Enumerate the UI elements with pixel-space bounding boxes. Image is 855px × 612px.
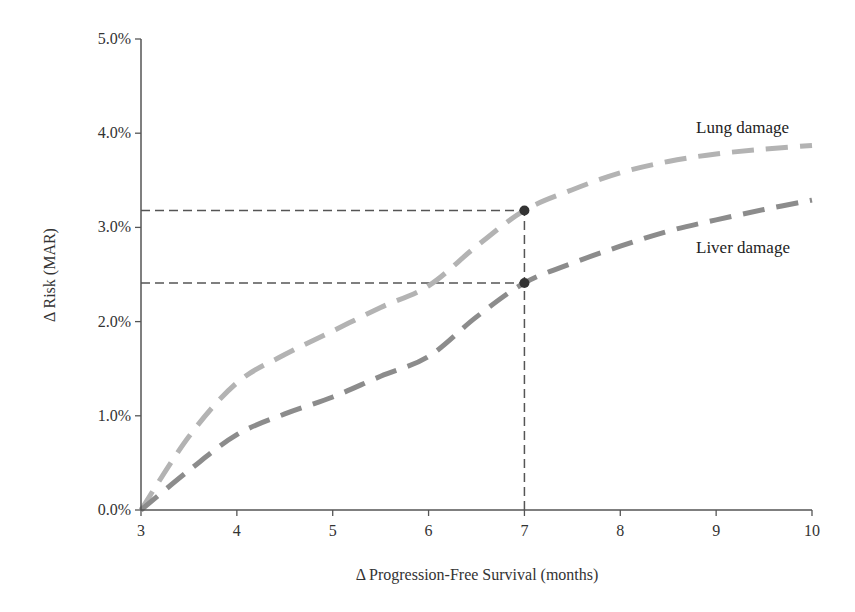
x-tick-label: 8 <box>616 522 624 539</box>
reference-point-marker <box>519 205 529 215</box>
y-tick-label: 0.0% <box>98 501 131 518</box>
x-tick-label: 3 <box>137 522 145 539</box>
x-tick-label: 9 <box>712 522 720 539</box>
y-tick-label: 4.0% <box>98 124 131 141</box>
y-axis-title: Δ Risk (MAR) <box>41 228 59 322</box>
reference-point-marker <box>519 278 529 288</box>
x-axis-title: Δ Progression-Free Survival (months) <box>356 566 599 584</box>
y-tick-label: 3.0% <box>98 218 131 235</box>
x-tick-label: 5 <box>329 522 337 539</box>
reference-points <box>519 205 529 288</box>
x-tick-label: 6 <box>425 522 433 539</box>
series-label-lung: Lung damage <box>696 118 789 137</box>
x-tick-label: 7 <box>520 522 528 539</box>
series-label-liver: Liver damage <box>696 238 790 257</box>
axes: 3456789100.0%1.0%2.0%3.0%4.0%5.0% <box>98 30 820 539</box>
x-tick-label: 4 <box>233 522 241 539</box>
y-tick-label: 1.0% <box>98 407 131 424</box>
y-tick-label: 2.0% <box>98 313 131 330</box>
x-tick-label: 10 <box>804 522 820 539</box>
chart: 3456789100.0%1.0%2.0%3.0%4.0%5.0% Lung d… <box>0 0 855 612</box>
lung-damage-curve <box>141 145 812 510</box>
curves <box>141 145 812 510</box>
y-tick-label: 5.0% <box>98 30 131 47</box>
